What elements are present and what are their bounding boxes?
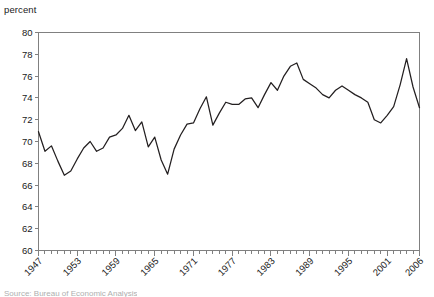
y-axis-tick-label: 72 <box>22 114 33 125</box>
y-axis-tick-label: 70 <box>22 136 33 147</box>
axis-lines-group <box>39 33 420 251</box>
line-chart-plot: 6062646668707274767880 19471953195919651… <box>0 0 434 297</box>
y-axis-tick-label: 64 <box>22 201 33 212</box>
x-axis-tick-label: 1977 <box>215 255 238 278</box>
y-axis-tick-label: 66 <box>22 180 33 191</box>
x-axis-tick-label: 2001 <box>370 255 393 278</box>
source-note: Source: Bureau of Economic Analysis <box>4 289 137 297</box>
x-axis-tick-label: 1959 <box>99 255 122 278</box>
x-axis-tick-label: 1971 <box>177 255 200 278</box>
y-axis-tick-label: 74 <box>22 92 33 103</box>
y-axis-tick-label: 60 <box>22 245 33 256</box>
x-axis-tick-label: 2006 <box>403 255 426 278</box>
data-series-line <box>39 59 420 176</box>
x-axis-tick-label: 1983 <box>254 255 277 278</box>
x-axis-ticks-group: 1947195319591965197119771983198919952001… <box>22 251 426 278</box>
chart-container: percent 6062646668707274767880 194719531… <box>0 0 434 297</box>
series-lines-group <box>39 59 420 176</box>
x-axis-tick-label: 1953 <box>60 255 83 278</box>
y-axis-tick-label: 68 <box>22 158 33 169</box>
y-axis-tick-label: 62 <box>22 223 33 234</box>
x-axis-tick-label: 1965 <box>138 255 161 278</box>
y-axis-tick-label: 76 <box>22 71 33 82</box>
y-axis-tick-label: 78 <box>22 49 33 60</box>
x-axis-tick-label: 1995 <box>332 255 355 278</box>
y-axis-tick-label: 80 <box>22 27 33 38</box>
y-axis-ticks-group: 6062646668707274767880 <box>22 27 39 256</box>
x-axis-tick-label: 1947 <box>22 255 45 278</box>
x-axis-tick-label: 1989 <box>293 255 316 278</box>
